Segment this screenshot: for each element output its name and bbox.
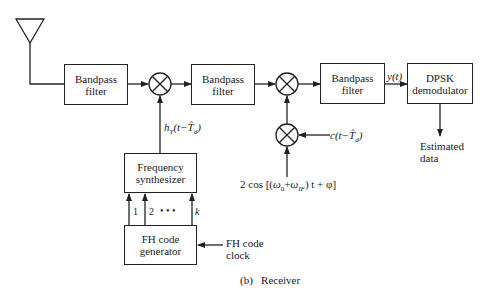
- line-2-label: 2: [149, 206, 154, 218]
- antenna-icon: [16, 19, 44, 43]
- mixer-1-icon: [149, 73, 171, 95]
- block-label: Bandpass: [75, 73, 117, 85]
- block-label: Bandpass: [331, 72, 373, 84]
- block-label: demodulator: [412, 84, 468, 96]
- hop-signal-label: hT(t−T̂d): [164, 121, 201, 138]
- block-label: FH code: [140, 233, 182, 245]
- mixer-3-icon: [276, 124, 298, 146]
- bandpass-filter-1: Bandpassfilter: [64, 64, 128, 105]
- code-signal-label: c(t−T̂d): [330, 129, 362, 146]
- block-label: DPSK: [412, 72, 468, 84]
- dots-label: • • •: [160, 205, 176, 217]
- block-label: filter: [202, 85, 244, 97]
- estimated-data-label: Estimateddata: [420, 140, 464, 164]
- figure-caption: (b) Receiver: [240, 274, 300, 286]
- line-k-label: k: [195, 206, 199, 218]
- y-t-label: y(t): [387, 70, 402, 82]
- mixer-2-icon: [276, 73, 298, 95]
- fh-code-clock-label: FH codeclock: [226, 237, 264, 261]
- block-label: filter: [75, 85, 117, 97]
- bandpass-filter-3: Bandpassfilter: [320, 63, 385, 104]
- block-label: synthesizer: [136, 173, 185, 185]
- block-label: Frequency: [136, 161, 185, 173]
- fh-code-generator: FH codegenerator: [124, 225, 197, 265]
- block-label: filter: [331, 84, 373, 96]
- local-oscillator-label: 2 cos [(ω0+ωIF) t + φ]: [240, 178, 336, 195]
- block-label: generator: [140, 245, 182, 257]
- dpsk-demodulator: DPSKdemodulator: [407, 63, 473, 104]
- bandpass-filter-2: Bandpassfilter: [191, 64, 255, 105]
- block-label: Bandpass: [202, 73, 244, 85]
- line-1-label: 1: [133, 206, 138, 218]
- frequency-synthesizer: Frequencysynthesizer: [124, 153, 197, 193]
